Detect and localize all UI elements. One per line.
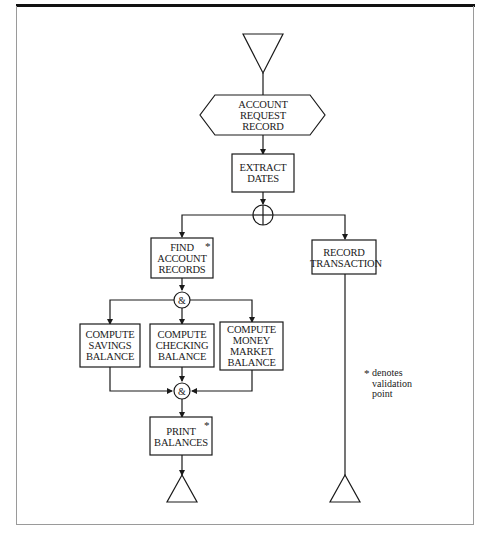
legend-note: * denotes validation point (372, 368, 412, 400)
validation-star: * (205, 242, 211, 250)
account-request-record-label: ACCOUNT REQUEST RECORD (218, 99, 308, 132)
end-left-triangle-icon (167, 475, 197, 502)
record-transaction-label: RECORD TRANSACTION (310, 247, 378, 269)
find-account-records-label: FIND ACCOUNT RECORDS (151, 242, 213, 275)
flowchart: & & (0, 0, 490, 540)
compute-money-market-label: COMPUTE MONEY MARKET BALANCE (220, 324, 283, 368)
end-right-triangle-icon (330, 475, 360, 502)
start-triangle-icon (243, 34, 283, 73)
and-split-symbol: & (178, 295, 186, 306)
compute-savings-label: COMPUTE SAVINGS BALANCE (80, 329, 140, 362)
extract-dates-label: EXTRACT DATES (232, 162, 294, 184)
and-join-symbol: & (178, 386, 186, 397)
legend-star: * (364, 369, 370, 377)
validation-star: * (204, 421, 210, 429)
print-balances-label: PRINT BALANCES (150, 426, 212, 448)
compute-checking-label: COMPUTE CHECKING BALANCE (150, 329, 214, 362)
